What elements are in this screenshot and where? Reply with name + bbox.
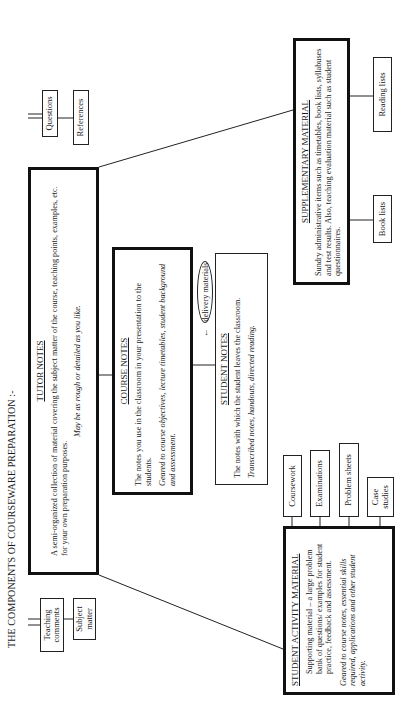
teaching-comments-box: Teaching comments (40, 598, 64, 652)
tutor-notes-heading: TUTOR NOTES (35, 170, 45, 572)
student-activity-heading: STUDENT ACTIVITY MATERIAL (290, 529, 300, 692)
student-notes-box: STUDENT NOTES The notes with which the s… (215, 253, 268, 485)
tutor-notes-box: TUTOR NOTES A semi-organized collection … (28, 167, 99, 575)
book-lists-box: Book lists (373, 195, 392, 243)
course-notes-note: Geared to course objectives, lecture tim… (158, 250, 177, 492)
student-notes-heading: STUDENT NOTES (219, 254, 229, 484)
supplementary-material-box: SUPPLEMENTARY MATERIAL Sundry administra… (293, 38, 350, 285)
tutor-notes-note: May be as rough or detailed as you like. (73, 170, 83, 572)
student-notes-body: The notes with which the student leaves … (233, 254, 243, 484)
course-notes-body: The notes you use in the classroom in yo… (134, 250, 153, 492)
diagram-canvas: THE COMPONENTS OF COURSEWARE PREPARATION… (0, 0, 414, 712)
examinations-box: Examinations (310, 450, 330, 517)
student-activity-material-box: STUDENT ACTIVITY MATERIAL Supporting mat… (283, 526, 395, 695)
case-studies-box: Case studies (367, 477, 394, 517)
delivery-materials-oval: delivery materials (197, 261, 213, 323)
course-notes-box: COURSE NOTES The notes you use in the cl… (112, 247, 193, 495)
supplementary-heading: SUPPLEMENTARY MATERIAL (300, 41, 310, 282)
problem-sheets-box: Problem sheets (339, 443, 359, 517)
student-activity-body: Supporting material – a large problem ba… (305, 529, 334, 692)
references-box: References (73, 90, 89, 145)
subject-matter-box: Subject matter (73, 598, 96, 640)
student-notes-note: Transcribed notes, handouts, directed re… (247, 254, 257, 484)
reading-lists-box: Reading lists (373, 57, 392, 132)
supplementary-body: Sundry administrative items such as time… (314, 41, 343, 282)
course-notes-heading: COURSE NOTES (119, 250, 129, 492)
student-activity-note: Geared to course notes, essential skills… (339, 529, 368, 692)
questions-box: Questions (42, 90, 58, 137)
page-title: THE COMPONENTS OF COURSEWARE PREPARATION… (6, 390, 17, 648)
tutor-notes-body: A semi-organized collection of material … (50, 170, 69, 572)
coursework-box: Coursework (283, 455, 302, 517)
left-arrow-icon: ← (197, 325, 213, 337)
